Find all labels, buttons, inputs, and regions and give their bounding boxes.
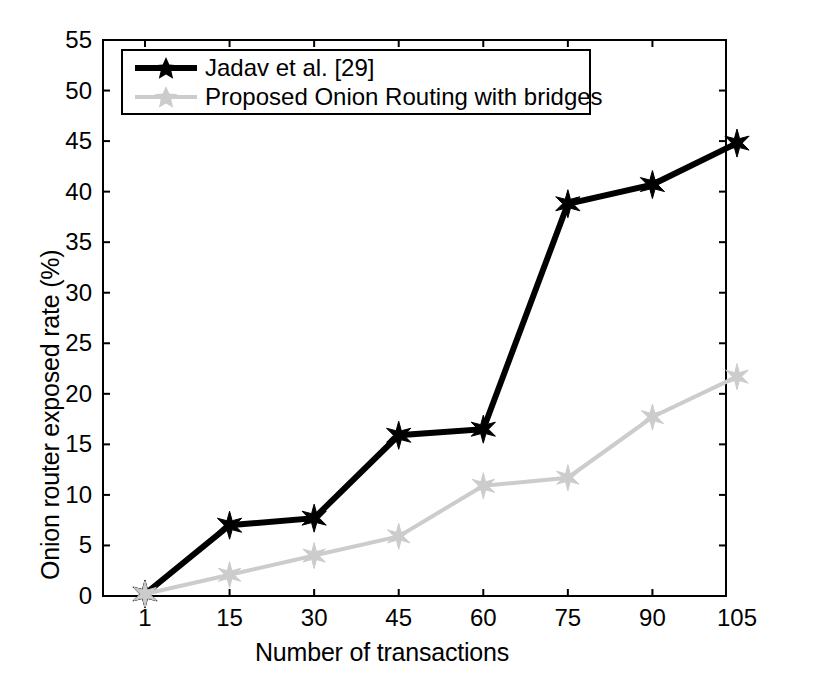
y-tick-label: 15 — [40, 430, 92, 458]
y-tick-label: 40 — [40, 178, 92, 206]
legend-item-0: Jadav et al. [29] — [133, 53, 374, 83]
y-tick-label: 45 — [40, 127, 92, 155]
axes-frame — [103, 40, 726, 596]
axis-ticks — [103, 40, 726, 596]
legend: Jadav et al. [29] Proposed Onion Routing… — [121, 49, 591, 115]
y-tick-label: 30 — [40, 279, 92, 307]
x-tick-label: 90 — [639, 604, 666, 632]
y-tick-label: 10 — [40, 481, 92, 509]
x-tick-label: 75 — [554, 604, 581, 632]
legend-swatch-series-1 — [133, 84, 199, 110]
legend-swatch-series-0 — [133, 55, 199, 81]
x-tick-label: 105 — [717, 604, 757, 632]
chart-figure: Onion router exposed rate (%) Number of … — [0, 0, 823, 691]
x-tick-label: 1 — [138, 604, 151, 632]
x-tick-label: 15 — [216, 604, 243, 632]
y-tick-label: 5 — [40, 531, 92, 559]
y-tick-label: 35 — [40, 228, 92, 256]
y-tick-label: 55 — [40, 26, 92, 54]
x-tick-label: 60 — [470, 604, 497, 632]
legend-label-0: Jadav et al. [29] — [205, 54, 374, 82]
data-series — [133, 129, 749, 608]
legend-label-1: Proposed Onion Routing with bridges — [205, 83, 603, 111]
x-tick-label: 30 — [301, 604, 328, 632]
y-tick-label: 50 — [40, 77, 92, 105]
y-tick-label: 25 — [40, 329, 92, 357]
legend-item-1: Proposed Onion Routing with bridges — [133, 82, 603, 112]
x-tick-label: 45 — [385, 604, 412, 632]
y-tick-label: 20 — [40, 380, 92, 408]
y-tick-label: 0 — [40, 582, 92, 610]
